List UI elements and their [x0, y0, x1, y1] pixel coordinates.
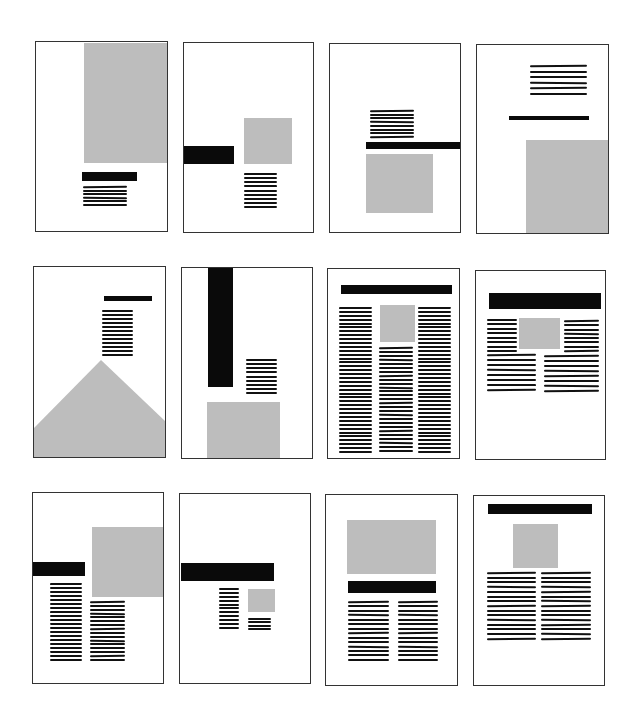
text-line: [379, 386, 413, 388]
text-line: [90, 659, 125, 661]
text-line: [348, 637, 389, 639]
text-line: [418, 354, 451, 356]
text-line: [418, 404, 451, 406]
text-line: [418, 447, 451, 449]
text-line: [418, 369, 451, 371]
text-line: [418, 435, 451, 437]
text-line: [50, 639, 82, 641]
text-line: [339, 319, 372, 321]
text-line: [348, 645, 389, 647]
text-line: [339, 443, 372, 445]
text-line: [418, 408, 451, 410]
text-line: [541, 628, 591, 630]
text-line: [50, 587, 82, 589]
text-line: [487, 337, 517, 339]
text-line: [487, 384, 536, 386]
text-line: [83, 197, 127, 199]
text-line: [487, 619, 536, 621]
text-line: [348, 610, 389, 612]
text-line: [418, 322, 451, 324]
text-line: [339, 400, 372, 402]
text-line: [541, 610, 591, 612]
text-line: [50, 627, 82, 629]
text-line: [418, 326, 451, 328]
text-line: [418, 420, 451, 422]
text-line: [244, 185, 277, 187]
text-line: [564, 333, 599, 335]
text-line: [541, 638, 591, 640]
text-line: [418, 381, 451, 383]
text-line: [246, 363, 277, 365]
text-block: [90, 601, 125, 661]
text-line: [219, 615, 239, 617]
image-block: [248, 589, 275, 612]
text-line: [246, 384, 277, 386]
text-line: [90, 639, 125, 641]
text-line: [339, 342, 372, 344]
text-line: [50, 631, 82, 633]
text-line: [418, 330, 451, 332]
text-line: [487, 596, 536, 598]
image-block: [347, 520, 436, 574]
text-line: [487, 577, 536, 579]
text-line: [50, 623, 82, 625]
page-thumbnail-p8: [475, 270, 606, 460]
text-line: [219, 596, 239, 598]
text-block: [244, 173, 277, 208]
page-thumbnail-p1: [35, 41, 168, 232]
text-line: [564, 329, 599, 331]
text-line: [487, 624, 536, 626]
text-line: [246, 359, 277, 361]
text-line: [379, 434, 413, 436]
text-line: [487, 572, 536, 574]
text-line: [379, 426, 413, 428]
text-line: [530, 93, 587, 95]
text-line: [244, 194, 277, 196]
headline-bar: [33, 562, 85, 576]
text-line: [487, 638, 536, 640]
text-line: [379, 394, 413, 396]
text-line: [348, 614, 389, 616]
text-line: [339, 322, 372, 324]
text-line: [379, 402, 413, 404]
text-line: [398, 650, 438, 652]
text-line: [219, 627, 239, 629]
text-line: [339, 408, 372, 410]
text-line: [339, 389, 372, 391]
image-block: [366, 154, 433, 213]
text-line: [90, 628, 125, 630]
text-line: [487, 345, 517, 347]
text-line: [418, 311, 451, 313]
text-line: [348, 619, 389, 621]
text-block: [398, 601, 438, 661]
text-line: [544, 360, 599, 362]
text-line: [348, 654, 389, 656]
text-line: [418, 400, 451, 402]
text-line: [370, 136, 414, 138]
text-block: [83, 186, 127, 206]
text-line: [248, 625, 271, 627]
text-line: [487, 591, 536, 593]
text-line: [487, 586, 536, 588]
text-line: [339, 412, 372, 414]
text-line: [379, 450, 413, 452]
text-block: [544, 355, 599, 392]
text-line: [379, 418, 413, 420]
text-line: [541, 619, 591, 621]
text-line: [541, 572, 591, 574]
text-line: [339, 420, 372, 422]
text-line: [248, 618, 271, 620]
text-line: [379, 371, 413, 373]
text-line: [379, 438, 413, 440]
image-block: [380, 305, 415, 342]
text-line: [244, 177, 277, 179]
text-line: [50, 615, 82, 617]
text-line: [90, 620, 125, 622]
text-line: [370, 129, 414, 131]
text-line: [418, 396, 451, 398]
text-line: [244, 198, 277, 200]
text-line: [339, 424, 372, 426]
text-line: [544, 355, 599, 357]
text-line: [348, 659, 389, 661]
text-line: [83, 193, 127, 195]
